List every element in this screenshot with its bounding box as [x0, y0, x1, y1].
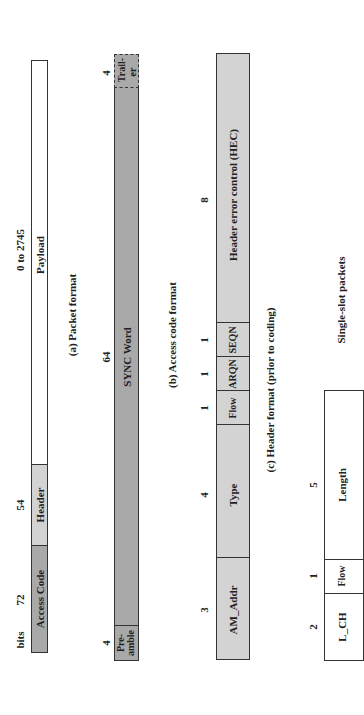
access-code-caption: (b) Access code format: [167, 282, 178, 388]
payload-flow-bits: 1: [308, 573, 319, 579]
am-addr-label: AM_Addr: [228, 586, 239, 635]
single-slot-packets-label: Single-slot packets: [336, 256, 347, 343]
hec-bits: 8: [199, 197, 210, 203]
hec-label: Header error control (HEC): [228, 129, 239, 261]
type-label: Type: [228, 483, 239, 506]
payload-bits: 0 to 2745: [15, 229, 26, 271]
preamble-bits: 4: [101, 640, 112, 646]
l-ch-bits: 2: [308, 624, 319, 630]
length-label: Length: [337, 468, 348, 502]
sync-word-label: SYNC Word: [122, 327, 133, 386]
flow-label: Flow: [228, 397, 238, 418]
access-code-label: Access Code: [35, 570, 46, 628]
sync-word-bits: 64: [101, 352, 112, 363]
type-bits: 4: [199, 492, 210, 498]
bits-unit-label: bits: [15, 631, 26, 648]
l-ch-label: L_CH: [337, 612, 348, 641]
seqn-label: SEQN: [228, 326, 238, 353]
arqn-bits: 1: [199, 371, 210, 377]
flow-bits: 1: [199, 405, 210, 411]
preamble-label-line2: amble: [126, 630, 136, 656]
header-bits: 54: [15, 500, 26, 511]
seqn-bits: 1: [199, 337, 210, 343]
packet-format-caption: (a) Packet format: [67, 274, 78, 356]
trailer-label-line2: er: [128, 68, 138, 77]
trailer-label-line1: Trail-: [117, 58, 127, 82]
header-format-caption: (c) Header format (prior to coding): [265, 308, 276, 473]
access-code-bits: 72: [15, 595, 26, 606]
header-label: Header: [35, 488, 46, 523]
length-bits: 5: [308, 482, 319, 488]
arqn-label: ARQN: [228, 359, 238, 388]
payload-flow-label: Flow: [337, 565, 347, 586]
trailer-bits: 4: [101, 70, 112, 76]
am-addr-bits: 3: [199, 607, 210, 613]
payload-label: Payload: [35, 236, 46, 274]
